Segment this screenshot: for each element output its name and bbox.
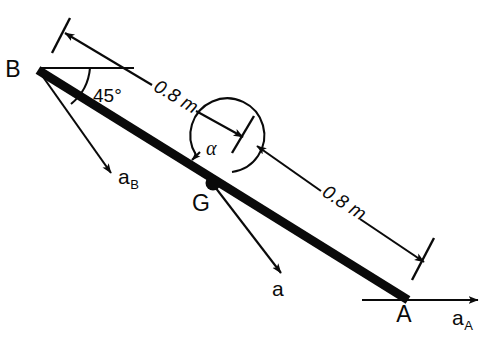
- mechanics-diagram-figure: B G A 45° α 0.8 m 0.8 m aB a aA: [0, 0, 493, 346]
- point-label-A: A: [396, 301, 412, 327]
- dim-line-BG-left-half: [65, 33, 152, 85]
- diagram-canvas: B G A 45° α 0.8 m 0.8 m aB a aA: [0, 0, 493, 346]
- point-label-B: B: [5, 56, 20, 82]
- mass-center-dot-G: [206, 176, 221, 191]
- vector-label-aA-subscript: A: [464, 318, 473, 333]
- point-label-G: G: [192, 190, 210, 216]
- dimension-label-GA: 0.8 m: [319, 181, 370, 224]
- angle-arc-alpha: [190, 98, 264, 172]
- dim-line-BG-right-half: [196, 111, 243, 137]
- vector-label-aB-subscript: B: [130, 177, 139, 192]
- vector-label-aG: a: [272, 277, 284, 300]
- dimension-label-BG: 0.8 m: [150, 75, 202, 117]
- extension-tick-at-A: [412, 238, 434, 280]
- dim-line-GA-lower-half: [360, 219, 424, 262]
- vector-label-aB-base: a: [118, 165, 130, 188]
- vector-label-aA-base: a: [452, 306, 464, 329]
- vector-label-aB: aB: [118, 165, 139, 192]
- angle-label-45: 45°: [93, 85, 122, 106]
- angle-label-alpha: α: [206, 137, 217, 159]
- extension-tick-at-G: [232, 116, 254, 153]
- vector-label-aA: aA: [452, 306, 473, 333]
- dim-line-GA-upper-half: [257, 146, 321, 191]
